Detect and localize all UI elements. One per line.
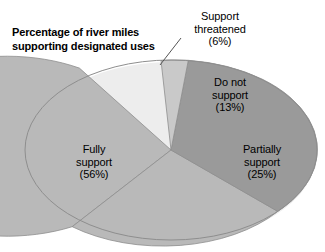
- slice-label-support-threatened-value: (6%): [182, 35, 258, 48]
- slice-label-support-threatened-line-2: threatened: [182, 23, 258, 36]
- chart-title-line-2: supporting designated uses: [12, 40, 155, 52]
- slice-label-fully-support-line-2: support: [58, 156, 130, 169]
- slice-label-partially-support: Partially support (25%): [223, 143, 301, 181]
- slice-label-support-threatened-line-1: Support: [182, 10, 258, 23]
- chart-title-line-1: Percentage of river miles: [12, 26, 139, 38]
- slice-label-do-not-support-value: (13%): [194, 101, 266, 114]
- slice-label-partially-support-line-1: Partially: [223, 143, 301, 156]
- slice-label-fully-support: Fully support (56%): [58, 143, 130, 181]
- pie-chart-figure: Percentage of river miles supporting des…: [0, 0, 325, 252]
- slice-label-support-threatened: Support threatened (6%): [182, 10, 258, 48]
- slice-label-fully-support-value: (56%): [58, 168, 130, 181]
- slice-label-partially-support-line-2: support: [223, 156, 301, 169]
- chart-title: Percentage of river miles supporting des…: [12, 26, 184, 53]
- slice-label-do-not-support-line-1: Do not: [194, 76, 266, 89]
- slice-label-fully-support-line-1: Fully: [58, 143, 130, 156]
- slice-label-partially-support-value: (25%): [223, 168, 301, 181]
- slice-label-do-not-support-line-2: support: [194, 89, 266, 102]
- slice-label-do-not-support: Do not support (13%): [194, 76, 266, 114]
